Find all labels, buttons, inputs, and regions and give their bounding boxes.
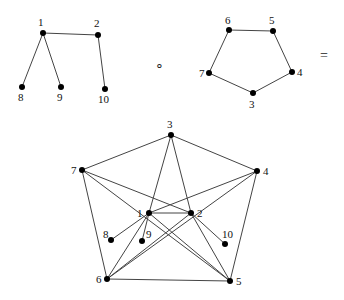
node-1 [40, 30, 46, 36]
edge-3-4 [171, 135, 257, 171]
node-4 [289, 69, 295, 75]
edge-6-5 [107, 279, 230, 281]
node-label-5: 5 [269, 14, 275, 26]
node-6 [104, 276, 110, 282]
node-label-6: 6 [96, 273, 102, 285]
edge-1-5 [149, 213, 230, 281]
composition-operator: ∘ [155, 58, 164, 73]
node-3 [168, 132, 174, 138]
node-9 [58, 84, 64, 90]
node-4 [254, 168, 260, 174]
node-label-4: 4 [263, 165, 269, 177]
node-label-2: 2 [197, 207, 203, 219]
node-label-2: 2 [94, 17, 100, 29]
node-1 [146, 210, 152, 216]
node-label-1: 1 [38, 16, 44, 28]
equals-operator: = [320, 48, 328, 63]
pentagon-graph: 65437 [199, 14, 303, 110]
composition-graph: 37412891065 [71, 118, 269, 287]
node-5 [227, 278, 233, 284]
node-label-1: 1 [137, 207, 143, 219]
node-label-8: 8 [103, 228, 109, 240]
edge-2-10 [98, 35, 105, 89]
edge-1-6 [107, 213, 149, 279]
node-label-10: 10 [222, 228, 234, 240]
node-3 [250, 90, 256, 96]
node-label-7: 7 [199, 67, 205, 79]
node-label-8: 8 [18, 91, 24, 103]
node-label-9: 9 [57, 91, 63, 103]
node-2 [188, 210, 194, 216]
node-8 [19, 84, 25, 90]
diagram-svg: 1289106543737412891065∘= [0, 0, 344, 300]
node-6 [226, 27, 232, 33]
edge-4-3 [253, 72, 292, 93]
edge-3-2 [171, 135, 191, 213]
edge-1-9 [43, 33, 61, 87]
edge-5-4 [273, 31, 292, 72]
node-label-10: 10 [98, 93, 110, 105]
node-7 [206, 70, 212, 76]
node-label-4: 4 [297, 66, 303, 78]
node-label-5: 5 [236, 275, 242, 287]
node-label-3: 3 [167, 118, 173, 130]
edge-2-5 [191, 213, 230, 281]
node-7 [79, 167, 85, 173]
node-label-7: 7 [71, 164, 77, 176]
node-5 [270, 28, 276, 34]
edge-4-1 [149, 171, 257, 213]
node-label-3: 3 [249, 98, 255, 110]
edge-2-6 [107, 213, 191, 279]
graph-composition-diagram: 1289106543737412891065∘= [0, 0, 344, 300]
node-10 [222, 241, 228, 247]
edge-3-7 [209, 73, 253, 93]
edge-1-2 [43, 33, 98, 35]
edge-6-5 [229, 30, 273, 31]
node-label-6: 6 [225, 14, 231, 26]
edge-1-8 [22, 33, 43, 87]
edge-3-7 [82, 135, 171, 170]
node-10 [102, 86, 108, 92]
tree-graph: 128910 [18, 16, 110, 105]
node-8 [108, 237, 114, 243]
node-label-9: 9 [146, 228, 152, 240]
edge-7-6 [209, 30, 229, 73]
node-2 [95, 32, 101, 38]
node-9 [139, 238, 145, 244]
